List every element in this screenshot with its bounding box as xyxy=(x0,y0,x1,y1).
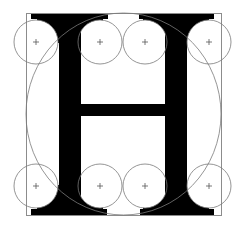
stem-core xyxy=(59,19,81,209)
crossbar xyxy=(81,104,165,116)
stem-core xyxy=(165,19,187,209)
diagram-canvas xyxy=(0,0,234,238)
h-construction-diagram xyxy=(0,0,234,238)
